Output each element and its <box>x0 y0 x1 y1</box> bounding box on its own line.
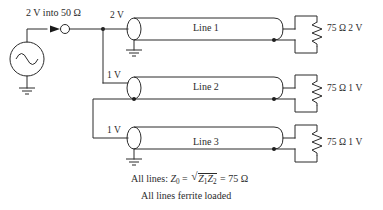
line-2-input-voltage-label: 1 V <box>107 71 121 81</box>
line-1-shield-ground <box>126 40 142 56</box>
load-resistor-1 <box>295 16 322 53</box>
source-output-port <box>50 25 103 34</box>
source-ground-symbol <box>19 88 35 94</box>
line-3-label: Line 3 <box>193 137 219 147</box>
formula-equals-2: = 75 Ω <box>218 173 249 184</box>
line-3-shield-ground <box>126 149 142 165</box>
load-resistor-3 <box>295 125 322 162</box>
load-resistor-2 <box>295 75 322 112</box>
radicand: Z1Z2 <box>198 173 216 186</box>
ferrite-footnote: All lines ferrite loaded <box>141 191 231 201</box>
impedance-formula: All lines: Z0 = √Z1Z2 = 75 Ω <box>131 172 248 186</box>
formula-prefix: All lines: <box>131 173 170 184</box>
load-3-label: 75 Ω 1 V <box>327 138 362 148</box>
line-3-input-voltage-label: 1 V <box>107 126 121 136</box>
formula-z2-subscript: 2 <box>213 178 217 186</box>
load-1-label: 75 Ω 2 V <box>327 24 362 34</box>
ac-source-symbol <box>10 29 47 88</box>
circuit-diagram: 2 V into 50 Ω 2 V 1 V 1 V Line 1 Line 2 … <box>0 0 383 210</box>
source-drive-label: 2 V into 50 Ω <box>26 8 81 18</box>
line-1-input-voltage-label: 2 V <box>110 11 124 21</box>
radical-icon: √ <box>191 171 197 183</box>
line-2-label: Line 2 <box>193 82 219 92</box>
formula-radical-group: √Z1Z2 <box>191 172 216 186</box>
formula-equals-1: = <box>180 173 191 184</box>
line-1-label: Line 1 <box>193 23 219 33</box>
load-2-label: 75 Ω 1 V <box>327 84 362 94</box>
